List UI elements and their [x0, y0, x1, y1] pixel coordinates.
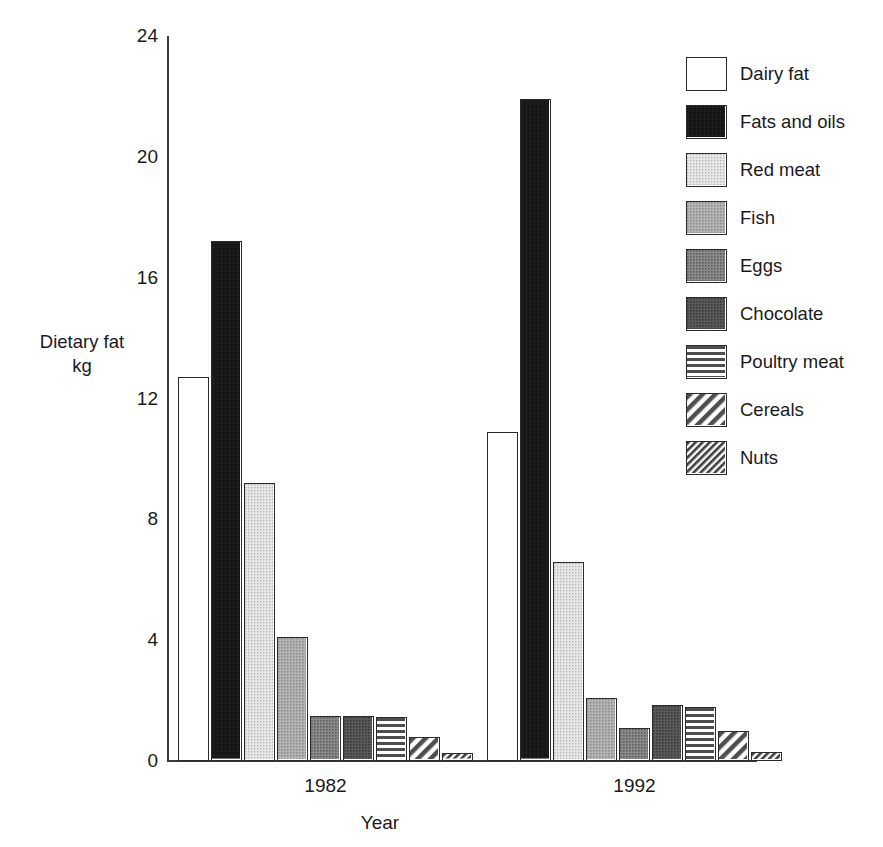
x-axis-title: Year [0, 812, 760, 834]
bar [244, 483, 275, 761]
legend-label: Nuts [740, 446, 778, 470]
y-axis-title: Dietary fat kg [12, 330, 152, 378]
bar [586, 698, 617, 761]
bar-chart: Dietary fat kg 04812162024 19821992 Year… [0, 0, 883, 847]
legend-label: Fish [740, 206, 775, 230]
legend-swatch-icon [686, 249, 727, 283]
bar [211, 241, 242, 761]
bar [277, 637, 308, 761]
bar [376, 717, 407, 761]
bar [310, 716, 341, 761]
bar [718, 731, 749, 761]
legend-swatch-icon [686, 297, 727, 331]
y-tick-label: 20 [100, 147, 158, 166]
bar [751, 752, 782, 761]
legend-swatch-icon [686, 201, 727, 235]
y-axis-line [167, 36, 169, 762]
bar [409, 737, 440, 761]
y-tick-label: 16 [100, 268, 158, 287]
legend-label: Dairy fat [740, 62, 809, 86]
bar [652, 705, 683, 761]
legend-label: Fats and oils [740, 110, 845, 134]
legend-swatch-icon [686, 441, 727, 475]
bar [685, 707, 716, 761]
y-tick-label: 12 [100, 389, 158, 408]
legend-label: Poultry meat [740, 350, 844, 374]
legend-swatch-icon [686, 345, 727, 379]
y-tick-label: 0 [100, 751, 158, 770]
bar [487, 432, 518, 761]
legend-swatch-icon [686, 57, 727, 91]
y-axis-title-line1: Dietary fat [12, 330, 152, 354]
legend-swatch-icon [686, 153, 727, 187]
x-tick-label: 1992 [575, 775, 695, 797]
bar [178, 377, 209, 761]
x-tick-label: 1982 [266, 775, 386, 797]
bar [442, 753, 473, 761]
bar [520, 99, 551, 761]
legend-label: Eggs [740, 254, 782, 278]
legend-swatch-icon [686, 105, 727, 139]
bar [343, 716, 374, 761]
y-tick-label: 8 [100, 509, 158, 528]
y-tick-label: 4 [100, 630, 158, 649]
legend-label: Cereals [740, 398, 804, 422]
legend-label: Chocolate [740, 302, 823, 326]
y-axis-title-line2: kg [12, 354, 152, 378]
bar [619, 728, 650, 761]
legend-swatch-icon [686, 393, 727, 427]
y-tick-label: 24 [100, 26, 158, 45]
bar [553, 562, 584, 761]
legend-label: Red meat [740, 158, 820, 182]
